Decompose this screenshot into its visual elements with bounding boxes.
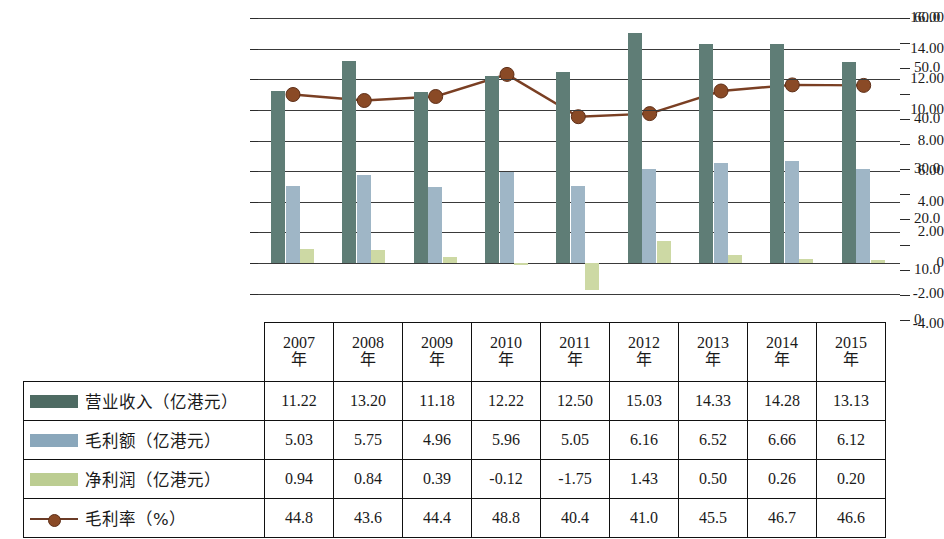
table-year-header: 2010年 xyxy=(472,323,541,382)
right-axis-tick xyxy=(900,94,910,95)
gross-margin-marker xyxy=(643,107,657,121)
right-axis-tick xyxy=(900,169,910,170)
table-cell: 14.33 xyxy=(679,382,748,421)
table-cell: 41.0 xyxy=(610,499,679,538)
gross-profit-bar xyxy=(714,163,728,263)
table-row: 营业收入（亿港元）11.2213.2011.1812.2212.5015.031… xyxy=(24,382,886,421)
gross-profit-bar xyxy=(357,175,371,263)
gross-profit-bar xyxy=(642,169,656,263)
bar-swatch-revenue-icon xyxy=(30,395,78,408)
table-cell: 1.43 xyxy=(610,460,679,499)
right-axis-tick xyxy=(900,68,910,69)
right-axis-tick-label: 10.0 xyxy=(914,262,940,277)
table-cell: 0.50 xyxy=(679,460,748,499)
table-cell: 0.26 xyxy=(748,460,817,499)
table-cell: 5.96 xyxy=(472,421,541,460)
right-axis-tick xyxy=(900,320,910,321)
table-year-header: 2007年 xyxy=(265,323,334,382)
table-cell: 6.66 xyxy=(748,421,817,460)
table-year-header: 2012年 xyxy=(610,323,679,382)
year-unit: 年 xyxy=(265,352,333,369)
table-row-label: 毛利额（亿港元） xyxy=(24,421,265,460)
series-name: 毛利额（亿港元） xyxy=(85,432,221,451)
net-profit-bar xyxy=(799,259,813,263)
net-profit-bar xyxy=(371,250,385,263)
gross-profit-bar xyxy=(428,187,442,263)
table-cell: 5.03 xyxy=(265,421,334,460)
revenue-bar xyxy=(556,72,570,263)
table-year-header: 2015年 xyxy=(817,323,886,382)
net-profit-bar xyxy=(657,241,671,263)
table-year-header: 2013年 xyxy=(679,323,748,382)
year-number: 2015 xyxy=(817,335,885,352)
table-row-label: 毛利率（%） xyxy=(24,499,265,538)
bar-swatch-net-profit-icon xyxy=(30,473,78,486)
year-number: 2013 xyxy=(679,335,747,352)
table-cell: 40.4 xyxy=(541,499,610,538)
gridline xyxy=(258,263,900,264)
net-profit-bar xyxy=(514,263,528,265)
right-axis-tick xyxy=(900,18,910,19)
table-cell: 5.05 xyxy=(541,421,610,460)
table-year-header: 2014年 xyxy=(748,323,817,382)
gross-profit-bar xyxy=(571,186,585,263)
table-year-header: 2008年 xyxy=(334,323,403,382)
data-table: 2007年2008年2009年2010年2011年2012年2013年2014年… xyxy=(23,322,886,538)
gridline xyxy=(258,18,900,19)
right-axis-tick xyxy=(900,219,910,220)
revenue-bar xyxy=(628,33,642,263)
table-cell: 45.5 xyxy=(679,499,748,538)
line-swatch-gross-margin-icon xyxy=(30,512,78,525)
table-cell: 6.52 xyxy=(679,421,748,460)
left-axis-tick xyxy=(250,232,258,233)
table-cell: 11.22 xyxy=(265,382,334,421)
data-table-body: 2007年2008年2009年2010年2011年2012年2013年2014年… xyxy=(24,323,886,538)
table-cell: 46.7 xyxy=(748,499,817,538)
net-profit-bar xyxy=(300,249,314,263)
bar-swatch-gross-profit-icon xyxy=(30,434,78,447)
left-axis-tick xyxy=(250,202,258,203)
year-unit: 年 xyxy=(334,352,402,369)
table-cell: 6.16 xyxy=(610,421,679,460)
left-axis-tick xyxy=(250,79,258,80)
left-axis-tick xyxy=(250,263,258,264)
gross-profit-bar xyxy=(500,172,514,263)
net-profit-bar xyxy=(443,257,457,263)
left-axis-tick xyxy=(250,18,258,19)
revenue-bar xyxy=(842,62,856,263)
year-number: 2010 xyxy=(472,335,540,352)
table-cell: 5.75 xyxy=(334,421,403,460)
right-axis-tick-label: 40.0 xyxy=(914,111,940,126)
gross-margin-marker xyxy=(571,110,585,124)
table-cell: -1.75 xyxy=(541,460,610,499)
net-profit-bar xyxy=(728,255,742,263)
right-axis-tick xyxy=(900,245,910,246)
revenue-bar xyxy=(271,91,285,263)
series-name: 营业收入（亿港元） xyxy=(85,393,238,412)
year-number: 2008 xyxy=(334,335,402,352)
gross-margin-marker xyxy=(429,90,443,104)
table-cell: 48.8 xyxy=(472,499,541,538)
revenue-bar xyxy=(485,76,499,263)
revenue-bar xyxy=(342,61,356,263)
right-axis-tick xyxy=(900,144,910,145)
gross-profit-bar xyxy=(286,186,300,263)
table-cell: 4.96 xyxy=(403,421,472,460)
table-cell: 46.6 xyxy=(817,499,886,538)
revenue-bar xyxy=(770,44,784,263)
table-cell: 6.12 xyxy=(817,421,886,460)
year-unit: 年 xyxy=(610,352,678,369)
table-cell: 15.03 xyxy=(610,382,679,421)
year-number: 2007 xyxy=(265,335,333,352)
year-unit: 年 xyxy=(679,352,747,369)
year-number: 2009 xyxy=(403,335,471,352)
table-cell: 0.94 xyxy=(265,460,334,499)
net-profit-bar xyxy=(585,263,599,290)
left-axis-tick xyxy=(250,171,258,172)
table-row-label: 净利润（亿港元） xyxy=(24,460,265,499)
right-axis-tick xyxy=(900,270,910,271)
table-cell: 13.13 xyxy=(817,382,886,421)
series-name: 毛利率（%） xyxy=(85,510,186,529)
right-axis-tick-label: 50.0 xyxy=(914,60,940,75)
left-axis-tick xyxy=(250,49,258,50)
